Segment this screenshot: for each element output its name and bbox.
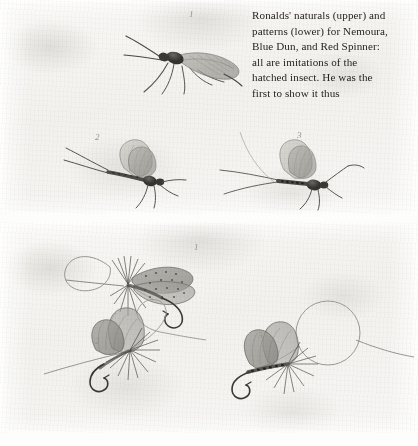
caption-line-4: all are imitations of the (252, 55, 414, 71)
lower-plate-edge-fade (0, 222, 418, 433)
figure-natural-2 (64, 140, 186, 208)
caption-line-3: Blue Dun, and Red Spinner: (252, 39, 414, 55)
lower-plate: 1 (0, 222, 418, 433)
figure-number-u1: 1 (189, 9, 194, 19)
caption-line-2: patterns (lower) for Nemoura, (252, 24, 414, 40)
figure-number-l2: 2 (95, 336, 100, 346)
figure-pattern-2 (44, 300, 206, 392)
caption-line-1: Ronalds' naturals (upper) and (252, 8, 414, 24)
figure-natural-3 (220, 132, 364, 210)
caption-block: Ronalds' naturals (upper) and patterns (… (252, 8, 414, 102)
figure-natural-1 (124, 36, 242, 94)
figure-number-l1: 1 (194, 242, 199, 252)
caption-line-6: first to show it thus (252, 86, 414, 102)
figure-number-l3: 3 (257, 330, 263, 340)
lower-plate-illustration: 1 (0, 222, 418, 433)
figure-number-u2: 2 (95, 132, 100, 142)
figure-pattern-3 (232, 301, 414, 399)
figure-pattern-1 (65, 256, 195, 328)
figure-number-u3: 3 (296, 130, 302, 140)
caption-line-5: hatched insect. He was the (252, 70, 414, 86)
plate-page: 1 (0, 0, 418, 446)
